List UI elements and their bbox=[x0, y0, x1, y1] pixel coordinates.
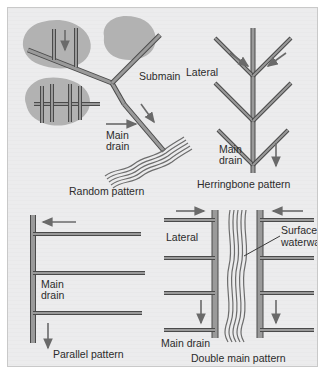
label-double-main-drain: Main drain bbox=[161, 337, 210, 349]
label-submain: Submain bbox=[139, 70, 181, 82]
caption-double-main-pattern: Double main pattern bbox=[191, 352, 286, 364]
caption-random-pattern: Random pattern bbox=[69, 185, 144, 197]
label-herringbone-lateral: Lateral bbox=[186, 66, 218, 78]
drainage-diagram-svg: Submain Main drain Random pattern bbox=[8, 8, 318, 367]
caption-parallel-pattern: Parallel pattern bbox=[53, 348, 124, 360]
label-random-main-drain-line2: drain bbox=[106, 140, 130, 152]
caption-herringbone-pattern: Herringbone pattern bbox=[197, 178, 291, 190]
label-herringbone-main-drain-line2: drain bbox=[219, 154, 243, 166]
figure-frame: Submain Main drain Random pattern bbox=[7, 7, 318, 367]
label-surface-waterway-line1: Surface bbox=[281, 224, 317, 236]
label-double-main-lateral: Lateral bbox=[166, 231, 198, 243]
label-parallel-main-drain-line2: drain bbox=[41, 289, 65, 301]
drainage-patterns-figure: Submain Main drain Random pattern bbox=[0, 0, 325, 374]
label-surface-waterway-line2: waterway bbox=[280, 236, 318, 248]
